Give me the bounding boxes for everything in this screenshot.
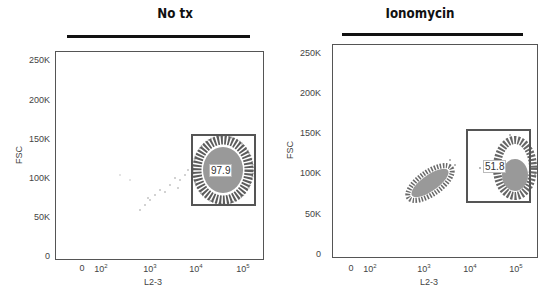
x-tick: 104: [455, 263, 485, 274]
panel-ionomycin: Ionomycin FSC 250K 200K 150K 100K 50K 0 …: [275, 0, 550, 298]
x-tick: 102: [86, 263, 116, 274]
x-axis-label: L2-3: [133, 277, 173, 287]
x-tick: 103: [409, 263, 439, 274]
x-tick: 104: [181, 263, 211, 274]
gate-percentage: 51.8: [483, 160, 506, 173]
x-tick: 103: [135, 263, 165, 274]
x-tick: 105: [228, 263, 258, 274]
x-tick: 105: [501, 263, 531, 274]
gate-percentage: 97.9: [209, 164, 232, 177]
x-axis-label: L2-3: [409, 277, 449, 287]
x-tick: 102: [355, 263, 385, 274]
panel-no-tx: No tx FSC 250K 200K 150K 100K 50K 0 97.9…: [0, 0, 275, 298]
